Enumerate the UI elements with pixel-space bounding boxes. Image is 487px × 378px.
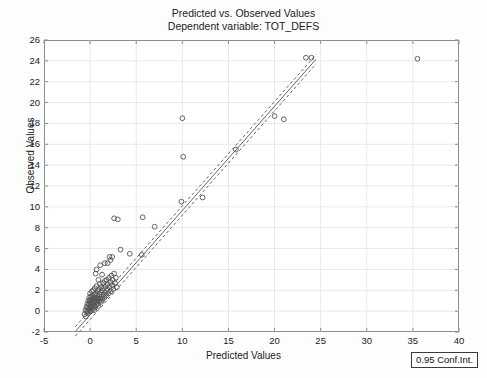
y-tick-label: 2	[10, 285, 40, 295]
x-tick-label: 0	[70, 336, 110, 346]
x-tick-label: -5	[24, 336, 64, 346]
x-tick-label: 20	[255, 336, 295, 346]
x-tick-label: 25	[301, 336, 341, 346]
x-tick-label: 5	[116, 336, 156, 346]
y-axis-label: Observed Values	[25, 96, 36, 216]
plot-canvas	[44, 40, 459, 332]
x-tick-label: 10	[162, 336, 202, 346]
y-tick-label: 8	[10, 223, 40, 233]
y-tick-label: 24	[10, 56, 40, 66]
x-tick-label: 30	[347, 336, 387, 346]
y-tick-label: 22	[10, 77, 40, 87]
x-tick-label: 35	[393, 336, 433, 346]
y-tick-label: 6	[10, 244, 40, 254]
x-tick-label: 40	[439, 336, 479, 346]
confidence-interval-legend: 0.95 Conf.Int.	[411, 352, 478, 368]
chart-title-block: Predicted vs. Observed Values Dependent …	[0, 7, 487, 33]
chart-subtitle: Dependent variable: TOT_DEFS	[0, 20, 487, 33]
y-tick-label: 0	[10, 306, 40, 316]
y-tick-label: 26	[10, 35, 40, 45]
x-tick-label: 15	[208, 336, 248, 346]
chart-container: Predicted vs. Observed Values Dependent …	[0, 0, 487, 378]
scatter-points	[82, 55, 420, 318]
y-tick-label: 4	[10, 264, 40, 274]
chart-title: Predicted vs. Observed Values	[0, 7, 487, 20]
